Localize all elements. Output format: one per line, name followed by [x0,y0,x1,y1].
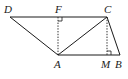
segment-AC [58,17,107,55]
right-angle-mark-F [58,17,62,21]
geometry-diagram: D F C A M B [0,0,128,79]
point-label-F: F [54,3,62,15]
right-angle-mark-M [107,51,111,55]
segment-DA [10,17,58,55]
point-label-C: C [104,3,112,15]
segment-CB [107,17,120,55]
point-label-A: A [53,58,61,70]
point-label-B: B [115,58,122,70]
point-label-M: M [100,58,111,70]
point-label-D: D [3,3,12,15]
